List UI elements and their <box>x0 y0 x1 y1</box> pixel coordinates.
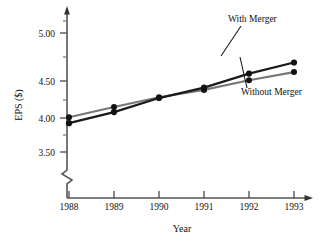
data-point <box>66 114 72 120</box>
eps-merger-line-chart: 5.00 4.50 4.00 3.50 EPS ($) 1988 1989 19… <box>0 0 332 243</box>
x-tick-label-1991: 1991 <box>195 202 214 212</box>
x-tick-label-1993: 1993 <box>285 202 304 212</box>
x-tick-label-1988: 1988 <box>60 202 79 212</box>
data-point <box>291 69 297 75</box>
data-point <box>291 59 297 65</box>
data-point <box>246 77 252 83</box>
x-tick-label-1989: 1989 <box>105 202 124 212</box>
x-tick-label-1992: 1992 <box>240 202 259 212</box>
y-tick-label-5.00: 5.00 <box>38 29 55 39</box>
chart-svg: 5.00 4.50 4.00 3.50 EPS ($) 1988 1989 19… <box>0 0 332 243</box>
x-tick-label-1990: 1990 <box>150 202 169 212</box>
data-point <box>111 109 117 115</box>
data-point <box>201 85 207 91</box>
x-axis-title: Year <box>173 223 192 234</box>
data-point <box>246 71 252 77</box>
y-tick-label-3.50: 3.50 <box>38 148 55 158</box>
data-point <box>66 120 72 126</box>
y-tick-label-4.00: 4.00 <box>38 114 55 124</box>
y-axis-title: EPS ($) <box>13 89 25 120</box>
without-merger-label: Without Merger <box>241 87 303 97</box>
with-merger-label: With Merger <box>228 14 278 24</box>
y-tick-label-4.50: 4.50 <box>38 77 55 87</box>
data-point <box>156 95 162 101</box>
